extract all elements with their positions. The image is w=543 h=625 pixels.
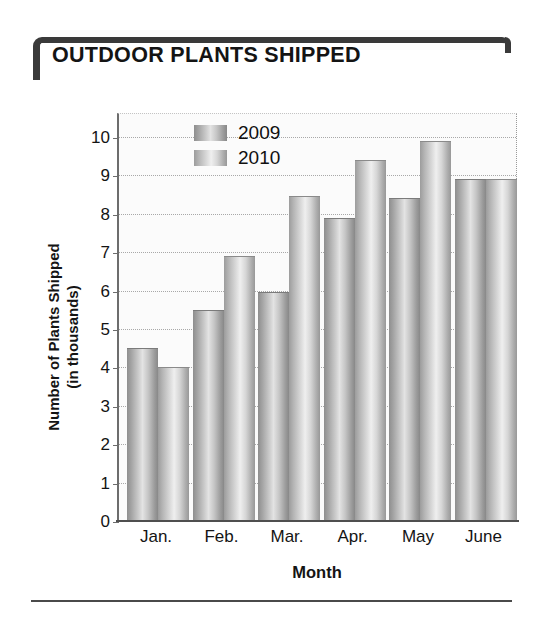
x-axis-baseline xyxy=(116,520,519,522)
x-tick-label-feb: Feb. xyxy=(204,527,238,547)
bar-2010-feb xyxy=(224,256,255,520)
x-tick-label-mar: Mar. xyxy=(270,527,303,547)
y-tick-label-1: 1 xyxy=(101,474,110,494)
legend-swatch-2010-icon xyxy=(194,150,227,166)
legend: 2009 2010 xyxy=(194,120,280,170)
legend-label-2010: 2010 xyxy=(238,147,280,169)
plot-area: 109876543210 2009 2010 xyxy=(117,113,517,521)
legend-item-2009: 2009 xyxy=(194,120,280,145)
y-tick-label-10: 10 xyxy=(91,128,110,148)
y-tick-label-4: 4 xyxy=(101,358,110,378)
x-axis-title: Month xyxy=(117,563,517,582)
legend-swatch-2009-icon xyxy=(194,125,227,141)
legend-label-2009: 2009 xyxy=(238,122,280,144)
bar-2010-may xyxy=(420,141,451,520)
y-tick-label-0: 0 xyxy=(101,512,110,532)
bar-group-feb xyxy=(193,114,255,521)
bar-2010-apr xyxy=(355,160,386,520)
bar-group-may xyxy=(389,114,451,521)
bars-layer xyxy=(119,114,516,521)
bar-2009-feb xyxy=(193,310,224,520)
bar-group-mar xyxy=(258,114,320,521)
x-tick-label-jan: Jan. xyxy=(140,527,172,547)
x-tick-label-apr: Apr. xyxy=(337,527,367,547)
bar-group-jan xyxy=(127,114,189,521)
y-axis-title-line2: (in thousands) xyxy=(63,202,82,472)
y-tick-label-3: 3 xyxy=(101,397,110,417)
bar-2010-jan xyxy=(158,367,189,520)
y-tick-label-2: 2 xyxy=(101,435,110,455)
y-axis-title-line1: Number of Plants Shipped xyxy=(44,202,63,472)
y-tick-label-5: 5 xyxy=(101,320,110,340)
bar-2009-mar xyxy=(258,292,289,520)
bar-group-june xyxy=(455,114,517,521)
y-axis-title: Number of Plants Shipped (in thousands) xyxy=(44,202,82,472)
bottom-rule xyxy=(31,600,512,602)
x-tick-label-june: June xyxy=(465,527,502,547)
y-tick-label-8: 8 xyxy=(101,205,110,225)
bar-2010-mar xyxy=(289,196,320,520)
y-tick-label-7: 7 xyxy=(101,243,110,263)
bar-2009-may xyxy=(389,198,420,520)
y-tick-0 xyxy=(113,522,119,523)
bar-2010-june xyxy=(486,179,517,520)
bar-2009-jan xyxy=(127,348,158,520)
bar-2009-apr xyxy=(324,218,355,520)
y-tick-label-9: 9 xyxy=(101,166,110,186)
chart-title: OUTDOOR PLANTS SHIPPED xyxy=(52,43,361,68)
bar-group-apr xyxy=(324,114,386,521)
bar-2009-june xyxy=(455,179,486,520)
y-tick-label-6: 6 xyxy=(101,282,110,302)
legend-item-2010: 2010 xyxy=(194,145,280,170)
x-tick-label-may: May xyxy=(402,527,434,547)
